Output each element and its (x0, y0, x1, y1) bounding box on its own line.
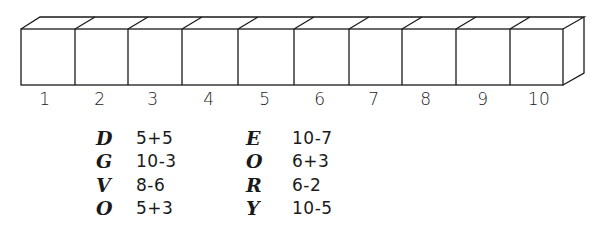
box-label-2: 2 (94, 89, 105, 109)
key-expression: 6-2 (292, 175, 321, 195)
key-expression: 10-5 (292, 198, 333, 218)
key-row: V 8-6 (96, 174, 165, 196)
box-label-8: 8 (420, 89, 431, 109)
box-label-10: 10 (528, 89, 551, 109)
key-row: D 5+5 (96, 127, 173, 149)
box-label-5: 5 (259, 89, 270, 109)
key-expression: 10-3 (136, 151, 177, 171)
box-label-4: 4 (203, 89, 214, 109)
key-letter: V (96, 174, 136, 196)
key-expression: 8-6 (136, 175, 165, 195)
key-letter: O (96, 197, 136, 219)
key-row: Y 10-5 (246, 197, 333, 219)
strip-top-face (21, 17, 584, 29)
key-expression: 6+3 (292, 151, 329, 171)
strip-front-face (21, 29, 563, 85)
key-expression: 5+5 (136, 128, 173, 148)
box-label-1: 1 (39, 89, 50, 109)
key-letter: D (96, 127, 136, 149)
key-row: R 6-2 (246, 174, 321, 196)
key-row: G 10-3 (96, 150, 177, 172)
box-label-7: 7 (368, 89, 379, 109)
key-expression: 5+3 (136, 198, 173, 218)
key-expression: 10-7 (292, 128, 333, 148)
box-label-6: 6 (314, 89, 325, 109)
key-row: O 5+3 (96, 197, 173, 219)
key-letter: G (96, 150, 136, 172)
box-label-9: 9 (477, 89, 488, 109)
key-row: E 10-7 (246, 127, 333, 149)
number-strip-figure: 1 2 3 4 5 6 7 8 9 10 D 5+5 G 10-3 V 8-6 … (0, 0, 601, 236)
box-label-3: 3 (147, 89, 158, 109)
key-letter: E (246, 127, 292, 149)
key-letter: O (246, 150, 292, 172)
key-letter: R (246, 174, 292, 196)
box-dividers (75, 17, 530, 85)
key-row: O 6+3 (246, 150, 329, 172)
key-letter: Y (246, 197, 292, 219)
